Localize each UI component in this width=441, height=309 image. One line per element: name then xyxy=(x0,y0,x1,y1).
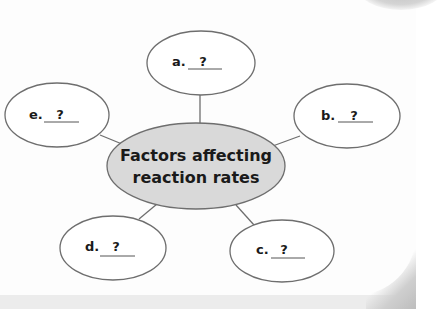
connector-d xyxy=(139,204,157,219)
center-node: Factors affecting reaction rates xyxy=(107,123,285,209)
node-c-letter: c. xyxy=(256,242,269,257)
node-c: c. ? xyxy=(230,220,334,282)
center-title-line2: reaction rates xyxy=(133,168,260,187)
node-a-blank: ? xyxy=(199,54,207,69)
node-b-blank: ? xyxy=(350,108,358,123)
node-d: d. ? xyxy=(60,216,166,280)
node-e-blank: ? xyxy=(56,107,64,122)
node-a: a. ? xyxy=(147,31,255,95)
connector-e xyxy=(100,135,122,144)
node-c-blank: ? xyxy=(280,242,288,257)
node-e: e. ? xyxy=(5,83,109,147)
node-d-letter: d. xyxy=(85,239,99,254)
connector-c xyxy=(236,205,254,225)
node-b: b. ? xyxy=(294,84,400,148)
node-e-letter: e. xyxy=(29,107,43,122)
node-a-letter: a. xyxy=(172,54,186,69)
node-d-blank: ? xyxy=(112,239,120,254)
center-title-line1: Factors affecting xyxy=(120,146,272,165)
node-b-letter: b. xyxy=(321,108,335,123)
